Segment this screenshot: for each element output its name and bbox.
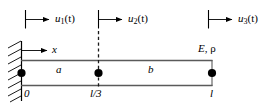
dof-arrow-group-u1 (26, 10, 50, 29)
node-2 (94, 69, 102, 77)
x-axis-label: x (52, 44, 57, 55)
beam-body (21, 60, 213, 86)
dof-label-u2: u2(t) (128, 13, 148, 26)
coord-label-origin: 0 (24, 88, 30, 99)
dof-label-u1: u1(t) (55, 13, 75, 26)
element-b-label: b (148, 64, 154, 75)
coord-label-length: l (210, 88, 213, 99)
node-3 (208, 69, 216, 77)
dof-arrow-group-u3 (209, 10, 233, 29)
material-properties-label: E, ρ (198, 43, 216, 54)
dof-label-u3: u3(t) (238, 13, 258, 26)
node-1 (17, 69, 25, 77)
dof-arrow-group-u2 (99, 10, 123, 29)
coord-label-third: l/3 (90, 88, 102, 99)
beam-element-diagram: u1(t) u2(t) u3(t) x E, ρ a b 0 l/3 l (0, 0, 277, 107)
element-a-label: a (56, 64, 62, 75)
